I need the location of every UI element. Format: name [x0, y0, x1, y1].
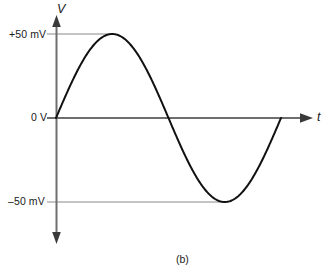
- y-axis-down-arrow-icon: [52, 232, 61, 244]
- y-axis-up-arrow-icon: [52, 15, 61, 27]
- figure-caption: (b): [176, 254, 189, 265]
- y-axis-label-plus-50: +50 mV: [9, 29, 46, 40]
- y-axis-name: V: [57, 3, 65, 16]
- x-axis-arrow-icon: [300, 113, 313, 123]
- x-axis-name: t: [317, 111, 320, 124]
- waveform-plot: [0, 0, 326, 271]
- y-axis-label-zero: 0 V: [31, 112, 47, 123]
- waveform-figure: +50 mV 0 V –50 mV V t (b): [0, 0, 326, 271]
- y-axis-label-minus-50: –50 mV: [8, 196, 45, 207]
